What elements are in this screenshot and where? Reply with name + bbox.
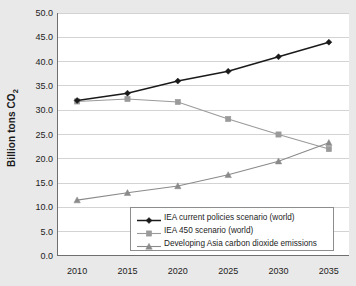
y-axis-tick-label: 25.0 bbox=[35, 130, 53, 140]
series-line bbox=[77, 99, 329, 149]
y-axis-tick-label: 15.0 bbox=[35, 178, 53, 188]
x-axis-tick-label: 2030 bbox=[269, 266, 289, 276]
y-axis-title: Billion tons CO2 bbox=[0, 0, 26, 256]
data-point-marker bbox=[124, 90, 130, 96]
y-axis-tick-label: 5.0 bbox=[40, 227, 53, 237]
y-axis-title-text: Billion tons CO2 bbox=[6, 89, 20, 167]
legend-key-canvas bbox=[136, 241, 162, 252]
data-point-marker bbox=[326, 146, 331, 151]
data-point-marker bbox=[326, 140, 332, 146]
data-point-marker bbox=[125, 96, 130, 101]
y-axis-title-main: Billion tons CO bbox=[6, 93, 17, 167]
data-point-marker bbox=[326, 39, 332, 45]
x-axis-tick-labels: 201020152020202520302035 bbox=[57, 262, 349, 278]
series-3 bbox=[74, 140, 332, 203]
series-1 bbox=[74, 39, 332, 103]
y-axis-tick-label: 0.0 bbox=[40, 251, 53, 261]
y-axis-tick-label: 45.0 bbox=[35, 32, 53, 42]
data-point-marker bbox=[146, 217, 152, 223]
legend-item-label: Developing Asia carbon dioxide emissions bbox=[164, 238, 317, 249]
y-axis-tick-label: 35.0 bbox=[35, 81, 53, 91]
y-axis-tick-label: 10.0 bbox=[35, 202, 53, 212]
y-axis-title-subscript: 2 bbox=[11, 89, 20, 93]
y-axis-tick-labels: 0.05.010.015.020.025.030.035.040.045.050… bbox=[24, 0, 53, 286]
series-2 bbox=[75, 96, 332, 151]
legend-marker-square-icon bbox=[136, 225, 162, 236]
series-line bbox=[77, 143, 329, 200]
y-axis-tick-label: 50.0 bbox=[35, 8, 53, 18]
legend-item: IEA current policies scenario (world) bbox=[136, 211, 329, 223]
x-axis-tick-label: 2010 bbox=[67, 266, 87, 276]
data-point-marker bbox=[146, 230, 151, 235]
y-axis-tick-label: 20.0 bbox=[35, 154, 53, 164]
y-axis-tick-label: 40.0 bbox=[35, 57, 53, 67]
data-point-marker bbox=[276, 54, 282, 60]
y-axis-tick-label: 30.0 bbox=[35, 105, 53, 115]
legend-marker-diamond-icon bbox=[136, 212, 162, 223]
chart-figure: Billion tons CO2 0.05.010.015.020.025.03… bbox=[0, 0, 356, 286]
x-axis-tick-label: 2015 bbox=[117, 266, 137, 276]
legend-item-label: IEA 450 scenario (world) bbox=[164, 225, 253, 236]
legend-item: IEA 450 scenario (world) bbox=[136, 224, 329, 236]
data-point-marker bbox=[175, 78, 181, 84]
x-axis-tick-label: 2025 bbox=[218, 266, 238, 276]
x-axis-tick-label: 2020 bbox=[168, 266, 188, 276]
series-line bbox=[77, 42, 329, 100]
data-point-marker bbox=[276, 132, 281, 137]
data-point-marker bbox=[226, 116, 231, 121]
chart-legend: IEA current policies scenario (world)IEA… bbox=[130, 207, 334, 251]
x-axis-tick-label: 2035 bbox=[319, 266, 339, 276]
data-point-marker bbox=[175, 99, 180, 104]
legend-item-label: IEA current policies scenario (world) bbox=[164, 212, 295, 223]
data-point-marker bbox=[225, 68, 231, 74]
legend-item: Developing Asia carbon dioxide emissions bbox=[136, 237, 329, 249]
legend-marker-triangle-icon bbox=[136, 238, 162, 249]
